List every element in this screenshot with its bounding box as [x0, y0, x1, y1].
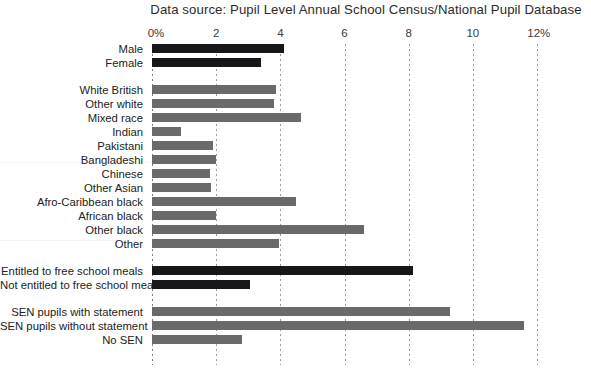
- bar-white-british: [152, 85, 276, 94]
- category-label-chinese: Chinese: [0, 169, 147, 180]
- bar-entitled-to-free-school-meals: [152, 266, 413, 275]
- gridline-8: [409, 44, 410, 365]
- bar-row: [152, 58, 261, 67]
- x-tick-label-2: 2: [213, 26, 219, 40]
- gridline-10: [473, 44, 474, 365]
- bar-row: [152, 225, 364, 234]
- category-label-bangladeshi: Bangladeshi: [0, 155, 147, 166]
- plot-area: [152, 44, 537, 365]
- bar-afro-caribbean-black: [152, 197, 296, 206]
- category-label-sen-pupils-with-statement: SEN pupils with statement: [0, 307, 147, 318]
- bar-no-sen: [152, 335, 242, 344]
- bar-sen-pupils-with-statement: [152, 307, 450, 316]
- category-label-indian: Indian: [0, 127, 147, 138]
- bar-row: [152, 239, 279, 248]
- gridline-6: [345, 44, 346, 365]
- category-label-pakistani: Pakistani: [0, 141, 147, 152]
- category-label-white-british: White British: [0, 85, 147, 96]
- scan-artifact: [0, 240, 120, 241]
- bar-other-asian: [152, 183, 211, 192]
- bar-row: [152, 321, 524, 330]
- bar-row: [152, 99, 274, 108]
- bar-other-white: [152, 99, 274, 108]
- x-tick-label-10: 10: [466, 26, 479, 40]
- bar-other-black: [152, 225, 364, 234]
- category-label-african-black: African black: [0, 211, 147, 222]
- bar-row: [152, 280, 250, 289]
- bar-row: [152, 169, 210, 178]
- category-label-other-white: Other white: [0, 99, 147, 110]
- bar-row: [152, 335, 242, 344]
- bar-row: [152, 113, 301, 122]
- bar-row: [152, 141, 213, 150]
- bar-african-black: [152, 211, 216, 220]
- bar-not-entitled-to-free-school-meals: [152, 280, 250, 289]
- category-label-female: Female: [0, 58, 147, 69]
- x-tick-label-12pct: 12%: [527, 26, 550, 40]
- bar-sen-pupils-without-statement: [152, 321, 524, 330]
- category-label-not-entitled-to-free-school-meals: Not entitled to free school meals: [0, 280, 147, 291]
- x-tick-label-8: 8: [405, 26, 411, 40]
- x-axis-tick-labels: 0%24681012%: [0, 26, 591, 42]
- bar-row: [152, 85, 276, 94]
- category-label-other-black: Other black: [0, 225, 147, 236]
- bar-female: [152, 58, 261, 67]
- bar-row: [152, 155, 216, 164]
- bar-row: [152, 127, 181, 136]
- bar-row: [152, 44, 284, 53]
- bar-row: [152, 266, 413, 275]
- bar-pakistani: [152, 141, 213, 150]
- category-label-no-sen: No SEN: [0, 335, 147, 346]
- x-tick-label-4: 4: [277, 26, 283, 40]
- category-label-male: Male: [0, 44, 147, 55]
- gridline-12: [537, 44, 538, 365]
- bar-mixed-race: [152, 113, 301, 122]
- bar-indian: [152, 127, 181, 136]
- bar-row: [152, 307, 450, 316]
- bar-row: [152, 197, 296, 206]
- category-label-mixed-race: Mixed race: [0, 113, 147, 124]
- x-tick-label-6: 6: [341, 26, 347, 40]
- bar-chinese: [152, 169, 210, 178]
- scan-artifact: [0, 162, 150, 163]
- x-tick-label-0pct: 0%: [148, 26, 165, 40]
- category-label-afro-caribbean-black: Afro-Caribbean black: [0, 197, 147, 208]
- chart-title: Data source: Pupil Level Annual School C…: [146, 2, 586, 17]
- bar-bangladeshi: [152, 155, 216, 164]
- bar-row: [152, 211, 216, 220]
- category-label-other-asian: Other Asian: [0, 183, 147, 194]
- category-label-entitled-to-free-school-meals: Entitled to free school meals: [0, 266, 147, 277]
- bar-other: [152, 239, 279, 248]
- bar-male: [152, 44, 284, 53]
- bar-row: [152, 183, 211, 192]
- y-axis-category-labels: MaleFemaleWhite BritishOther whiteMixed …: [0, 44, 147, 365]
- category-label-sen-pupils-without-statement: SEN pupils without statement: [0, 321, 147, 332]
